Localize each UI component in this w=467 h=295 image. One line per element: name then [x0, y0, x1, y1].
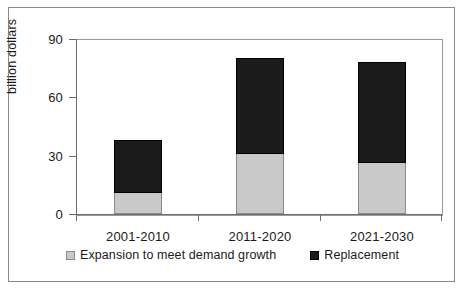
- legend-entry-replacement[interactable]: Replacement: [310, 248, 399, 262]
- black-square-icon: [310, 251, 319, 260]
- x-tickmark: [198, 215, 199, 221]
- y-axis-title: billion dollars: [5, 19, 19, 94]
- bar-segment-expansion[interactable]: [114, 193, 162, 214]
- x-category-label: 2001-2010: [78, 229, 198, 244]
- legend-label: Replacement: [324, 248, 399, 262]
- chart-legend: Expansion to meet demand growth Replacem…: [9, 248, 456, 262]
- y-tick-label: 90: [17, 33, 63, 46]
- y-tick-label: 0: [17, 208, 63, 221]
- x-tickmark: [76, 215, 77, 221]
- legend-entry-expansion[interactable]: Expansion to meet demand growth: [66, 248, 276, 262]
- x-category-label: 2011-2020: [200, 229, 320, 244]
- y-tick-30: 30: [9, 156, 77, 157]
- bar-segment-expansion[interactable]: [358, 163, 406, 214]
- gray-square-icon: [66, 251, 75, 260]
- x-axis-line: [76, 214, 442, 215]
- x-category-label: 2021-2030: [322, 229, 442, 244]
- bar-group-2021-2030[interactable]: [358, 62, 406, 214]
- y-tick-label: 30: [17, 149, 63, 162]
- bar-segment-expansion[interactable]: [236, 154, 284, 214]
- x-tickmark: [441, 215, 442, 221]
- x-tickmark: [320, 215, 321, 221]
- figure-frame: billion dollars 90 60 30 0: [8, 7, 455, 282]
- y-tick-60: 60: [9, 97, 77, 98]
- legend-label: Expansion to meet demand growth: [80, 248, 276, 262]
- bar-segment-replacement[interactable]: [358, 62, 406, 163]
- y-tick-label: 60: [17, 91, 63, 104]
- stacked-bar-chart: billion dollars 90 60 30 0: [9, 8, 456, 283]
- y-tick-0: 0: [9, 214, 77, 215]
- bar-group-2001-2010[interactable]: [114, 140, 162, 214]
- bars-layer: 2001-2010 2011-2020 2021-2030: [76, 39, 442, 214]
- bar-segment-replacement[interactable]: [236, 58, 284, 153]
- bar-group-2011-2020[interactable]: [236, 58, 284, 214]
- bar-segment-replacement[interactable]: [114, 140, 162, 193]
- y-tick-90: 90: [9, 39, 77, 40]
